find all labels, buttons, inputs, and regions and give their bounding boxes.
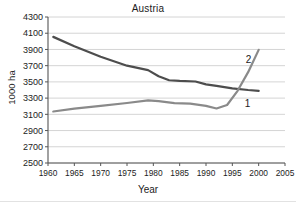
- y-tick-label: 2700: [23, 142, 43, 152]
- y-tick-label: 3500: [23, 77, 43, 87]
- x-tick-label: 1975: [118, 168, 137, 178]
- x-axis-title: Year: [0, 184, 296, 195]
- y-tick-label: 3700: [23, 61, 43, 71]
- y-tick-label: 4100: [23, 28, 43, 38]
- x-tick-label: 1990: [197, 168, 216, 178]
- series-line-2: [53, 50, 258, 112]
- x-tick-label: 1985: [170, 168, 189, 178]
- y-tick-label: 3900: [23, 45, 43, 55]
- series-line-1: [53, 37, 258, 91]
- x-tick-label: 1995: [223, 168, 242, 178]
- x-tick-label: 1960: [39, 168, 58, 178]
- series-label-2: 2: [246, 54, 252, 65]
- chart-container: Austria 1000 ha 250027002900310033003500…: [0, 0, 296, 204]
- plot-area: 2500270029003100330035003700390041004300…: [0, 0, 296, 204]
- x-tick-label: 2000: [249, 168, 268, 178]
- page-edge-artifact: [0, 201, 296, 202]
- x-tick-label: 1980: [144, 168, 163, 178]
- y-tick-label: 4300: [23, 12, 43, 22]
- y-tick-label: 2900: [23, 126, 43, 136]
- series-label-1: 1: [245, 98, 251, 109]
- y-tick-label: 3300: [23, 93, 43, 103]
- y-tick-label: 3100: [23, 110, 43, 120]
- x-tick-label: 1970: [91, 168, 110, 178]
- y-tick-label: 2500: [23, 158, 43, 168]
- x-tick-label: 2005: [276, 168, 295, 178]
- x-tick-label: 1965: [65, 168, 84, 178]
